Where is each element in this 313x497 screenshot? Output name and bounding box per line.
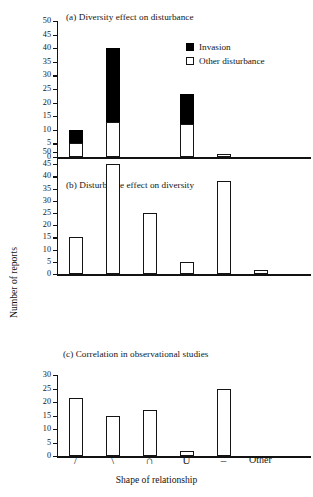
y-axis-line	[57, 152, 58, 275]
bar	[69, 398, 83, 456]
bar	[217, 389, 231, 457]
legend-label-invasion: Invasion	[199, 42, 231, 52]
y-axis-tick	[53, 75, 57, 76]
legend-item-other-disturbance: Other disturbance	[186, 54, 265, 67]
y-axis-tick-label: 15	[23, 112, 51, 120]
bar-segment-other-disturbance	[217, 154, 231, 157]
y-axis-tick-label: 10	[23, 425, 51, 433]
y-axis-title: Number of reports	[8, 223, 19, 343]
bar-segment-invasion	[69, 130, 83, 144]
bar-segment-other-disturbance	[69, 398, 83, 456]
legend: Invasion Other disturbance	[186, 40, 265, 68]
bar	[217, 181, 231, 274]
bar-segment-other-disturbance	[106, 416, 120, 457]
bar	[143, 410, 157, 456]
y-axis-tick	[53, 89, 57, 90]
y-axis-tick-label: 5	[23, 258, 51, 266]
bar-segment-other-disturbance	[69, 237, 83, 274]
y-axis-tick-label: 25	[23, 385, 51, 393]
y-axis-tick-label: 40	[23, 172, 51, 180]
y-axis-tick-label: 25	[23, 85, 51, 93]
bar	[106, 48, 120, 157]
bar-segment-other-disturbance	[217, 389, 231, 457]
legend-label-other-disturbance: Other disturbance	[199, 56, 265, 66]
y-axis-tick-label: 10	[23, 246, 51, 254]
y-axis-tick-label: 30	[23, 71, 51, 79]
y-axis-tick-label: 20	[23, 221, 51, 229]
y-axis-tick	[53, 429, 57, 430]
bar	[106, 164, 120, 274]
y-axis-tick-label: 35	[23, 185, 51, 193]
y-axis-tick-label: 30	[23, 371, 51, 379]
y-axis-tick-label: 15	[23, 233, 51, 241]
y-axis-tick-label: 50	[23, 148, 51, 156]
bar	[217, 154, 231, 157]
y-axis-tick-label: 0	[23, 452, 51, 460]
y-axis-tick	[53, 152, 57, 153]
y-axis-tick-label: 50	[23, 17, 51, 25]
x-axis-category-label: Other	[237, 455, 285, 465]
y-axis-tick	[53, 103, 57, 104]
y-axis-tick-label: 20	[23, 99, 51, 107]
y-axis-tick-label: 35	[23, 58, 51, 66]
y-axis-line	[57, 375, 58, 457]
y-axis-tick-label: 5	[23, 439, 51, 447]
bar-segment-other-disturbance	[180, 124, 194, 157]
y-axis-tick	[53, 389, 57, 390]
bar	[180, 262, 194, 274]
legend-swatch-invasion-icon	[186, 43, 194, 51]
x-axis-line	[57, 157, 311, 159]
panel-b-plot-area: 05101520253035404550	[0, 178, 313, 345]
bar-segment-other-disturbance	[106, 122, 120, 157]
y-axis-tick	[53, 416, 57, 417]
x-axis-line	[57, 274, 311, 276]
y-axis-tick	[53, 130, 57, 131]
y-axis-tick	[53, 213, 57, 214]
figure-panel-group: (a) Diversity effect on disturbance 0510…	[0, 0, 313, 497]
y-axis-tick-label: 20	[23, 398, 51, 406]
y-axis-tick-label: 0	[23, 270, 51, 278]
y-axis-tick	[53, 402, 57, 403]
y-axis-tick-label: 10	[23, 126, 51, 134]
y-axis-line	[57, 21, 58, 158]
y-axis-tick	[53, 35, 57, 36]
y-axis-tick	[53, 21, 57, 22]
y-axis-tick-label: 30	[23, 197, 51, 205]
bar-segment-other-disturbance	[69, 143, 83, 157]
bar-segment-other-disturbance	[143, 213, 157, 274]
y-axis-tick-label: 25	[23, 209, 51, 217]
bar-segment-other-disturbance	[106, 164, 120, 274]
y-axis-tick	[53, 375, 57, 376]
y-axis-tick	[53, 189, 57, 190]
bar	[143, 213, 157, 274]
bar	[106, 416, 120, 457]
y-axis-tick-label: 45	[23, 160, 51, 168]
legend-item-invasion: Invasion	[186, 40, 265, 53]
legend-swatch-other-disturbance-icon	[186, 57, 194, 65]
bar	[180, 94, 194, 157]
y-axis-tick-label: 15	[23, 412, 51, 420]
bar-segment-other-disturbance	[254, 270, 268, 274]
y-axis-tick-label: 40	[23, 44, 51, 52]
x-axis-title: Shape of relationship	[0, 474, 313, 485]
y-axis-tick	[53, 225, 57, 226]
bar	[69, 130, 83, 157]
y-axis-tick	[53, 262, 57, 263]
y-axis-tick	[53, 143, 57, 144]
y-axis-tick-label: 45	[23, 31, 51, 39]
y-axis-tick	[53, 237, 57, 238]
y-axis-tick	[53, 164, 57, 165]
y-axis-tick	[53, 274, 57, 275]
panel-b-disturbance-effect-on-diversity: (b) Disturbance effect on diversity 0510…	[0, 178, 313, 345]
y-axis-tick	[53, 250, 57, 251]
y-axis-tick	[53, 443, 57, 444]
y-axis-tick	[53, 176, 57, 177]
bar-segment-invasion	[106, 48, 120, 121]
bar-segment-other-disturbance	[180, 262, 194, 274]
y-axis-tick	[53, 48, 57, 49]
bar	[254, 270, 268, 274]
bar-segment-invasion	[180, 94, 194, 124]
bar-segment-other-disturbance	[217, 181, 231, 274]
y-axis-tick	[53, 116, 57, 117]
bar	[69, 237, 83, 274]
